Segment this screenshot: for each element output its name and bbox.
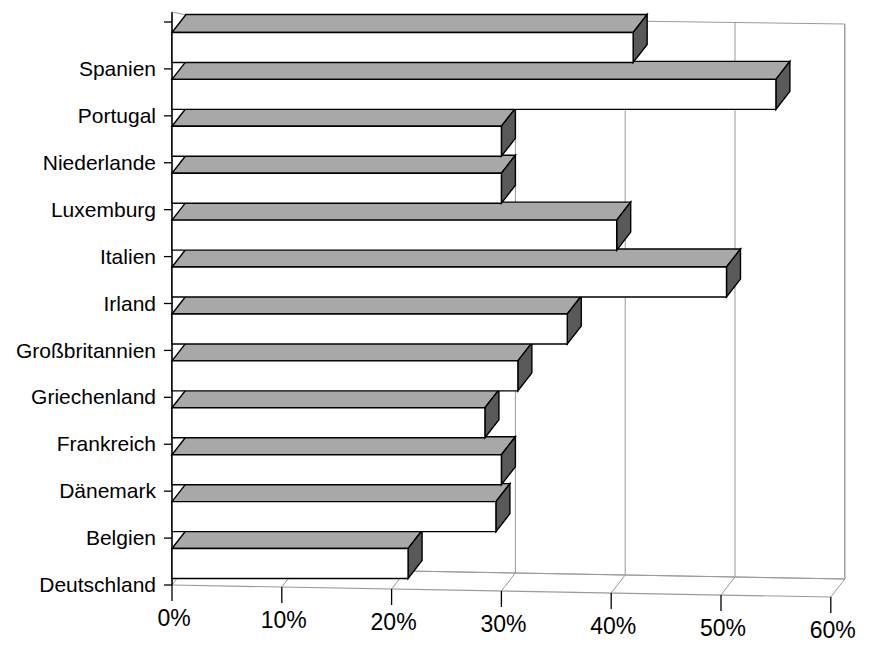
- bar-top-face: [172, 390, 499, 408]
- bar-portugal: [172, 61, 790, 109]
- bar-top-face: [172, 343, 532, 361]
- bar-frankreich: [172, 390, 499, 438]
- category-label-portugal: Portugal: [78, 104, 156, 127]
- chart-container: SpanienPortugalNiederlandeLuxemburgItali…: [0, 0, 871, 658]
- category-label-spanien: Spanien: [79, 57, 156, 80]
- bar-d-nemark: [172, 437, 515, 485]
- bar-top-face: [172, 202, 631, 220]
- bar-top-face: [172, 484, 510, 502]
- x-tick-label-20: 20%: [371, 609, 417, 635]
- bar-top-face: [172, 437, 515, 455]
- bar-top-face: [172, 14, 647, 32]
- bar-spanien: [172, 14, 647, 62]
- category-label-luxemburg: Luxemburg: [51, 198, 156, 221]
- bar-front-face: [172, 549, 408, 579]
- bar-niederlande: [172, 108, 515, 156]
- bar-belgien: [172, 484, 510, 532]
- x-tick-label-40: 40%: [590, 613, 636, 639]
- bar-irland: [172, 249, 740, 297]
- bar-griechenland: [172, 343, 532, 391]
- category-label-d-nemark: Dänemark: [59, 479, 156, 502]
- category-label-deutschland: Deutschland: [39, 573, 156, 596]
- bar-front-face: [172, 32, 633, 62]
- category-label-niederlande: Niederlande: [43, 151, 156, 174]
- bar-luxemburg: [172, 155, 515, 203]
- bar-front-face: [172, 173, 501, 203]
- bar-top-face: [172, 108, 515, 126]
- x-tick-label-60: 60%: [810, 617, 856, 643]
- category-label-belgien: Belgien: [86, 526, 156, 549]
- bar-front-face: [172, 126, 501, 156]
- category-label-gro-britannien: Großbritannien: [16, 339, 156, 362]
- bar-gro-britannien: [172, 296, 581, 344]
- bar-top-face: [172, 249, 740, 267]
- bar-top-face: [172, 531, 422, 549]
- x-tick-label-10: 10%: [261, 607, 307, 633]
- bar-front-face: [172, 502, 496, 532]
- bar-top-face: [172, 296, 581, 314]
- x-tick-label-0: 0%: [157, 605, 190, 631]
- bar-top-face: [172, 155, 515, 173]
- bar-front-face: [172, 220, 617, 250]
- bar-front-face: [172, 267, 726, 297]
- bar-front-face: [172, 79, 776, 109]
- bar-front-face: [172, 455, 501, 485]
- category-label-frankreich: Frankreich: [57, 432, 156, 455]
- x-tick-label-30: 30%: [480, 611, 526, 637]
- bar-deutschland: [172, 531, 422, 579]
- x-tick-label-50: 50%: [700, 615, 746, 641]
- bar-front-face: [172, 408, 485, 438]
- category-label-italien: Italien: [100, 245, 156, 268]
- bar-front-face: [172, 314, 567, 344]
- bar-chart-3d: SpanienPortugalNiederlandeLuxemburgItali…: [0, 0, 871, 658]
- category-label-griechenland: Griechenland: [31, 385, 156, 408]
- bar-front-face: [172, 361, 518, 391]
- bar-italien: [172, 202, 631, 250]
- bar-top-face: [172, 61, 790, 79]
- category-label-irland: Irland: [103, 292, 156, 315]
